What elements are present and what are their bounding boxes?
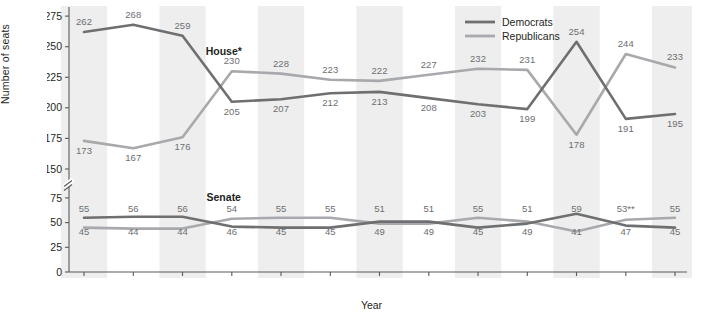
senate-data-label: 56	[128, 203, 139, 214]
senate-data-label: 41	[571, 226, 582, 237]
x-axis-title-text: Year	[361, 299, 382, 311]
house-data-label: 167	[125, 152, 141, 163]
house-data-label: 207	[273, 103, 289, 114]
house-data-label: 191	[618, 123, 634, 134]
senate-data-label: 49	[374, 226, 385, 237]
house-data-label: 262	[76, 16, 92, 27]
senate-data-label: 55	[79, 203, 90, 214]
legend-label-democrats: Democrats	[502, 16, 553, 28]
y-tick-label: 225	[47, 71, 62, 83]
legend-label-republicans: Republicans	[502, 30, 560, 42]
senate-data-label: 45	[473, 226, 484, 237]
senate-data-label: 45	[79, 226, 90, 237]
house-data-label: 268	[125, 9, 141, 20]
house-panel-label: House*	[206, 45, 243, 57]
senate-data-label: 55	[473, 203, 484, 214]
house-data-label: 223	[322, 64, 338, 75]
senate-data-label: 45	[670, 226, 681, 237]
house-data-label: 176	[175, 141, 191, 152]
senate-data-label: 55	[276, 203, 287, 214]
chart-svg: 27525022520017515075502501989–19901991–1…	[47, 6, 692, 278]
senate-data-label: 54	[226, 203, 237, 214]
house-data-label: 205	[224, 106, 240, 117]
senate-data-label: 45	[276, 226, 287, 237]
house-data-label: 195	[667, 118, 683, 129]
senate-data-label: 53**	[617, 203, 635, 214]
senate-data-label: 51	[423, 203, 434, 214]
house-data-label: 222	[372, 65, 388, 76]
house-data-label: 199	[519, 113, 535, 124]
house-data-label: 212	[322, 97, 338, 108]
y-tick-label: 175	[47, 132, 62, 144]
house-data-label: 233	[667, 51, 683, 62]
senate-panel-label: Senate	[207, 191, 242, 203]
senate-data-label: 44	[128, 226, 139, 237]
senate-data-label: 51	[522, 203, 533, 214]
senate-data-label: 56	[177, 203, 188, 214]
house-data-label: 208	[421, 102, 437, 113]
y-tick-label: 0	[56, 266, 62, 278]
senate-data-label: 44	[177, 226, 188, 237]
house-data-label: 231	[519, 54, 535, 65]
house-data-label: 213	[372, 96, 388, 107]
plot-area: 27525022520017515075502501989–19901991–1…	[47, 6, 692, 278]
senate-data-label: 46	[226, 226, 237, 237]
house-data-label: 228	[273, 58, 289, 69]
senate-data-label: 45	[325, 226, 336, 237]
y-tick-label: 200	[47, 101, 62, 113]
y-axis-title: Number of seats	[0, 0, 11, 104]
senate-data-label: 47	[620, 226, 631, 237]
senate-data-label: 55	[325, 203, 336, 214]
house-data-label: 259	[175, 20, 191, 31]
senate-data-label: 55	[670, 203, 681, 214]
house-data-label: 254	[569, 26, 585, 37]
house-data-label: 178	[569, 139, 585, 150]
y-tick-label: 250	[47, 40, 62, 52]
senate-data-label: 49	[522, 226, 533, 237]
x-axis-title: Year	[0, 299, 705, 311]
chart-root: Number of seats Year 2752502252001751507…	[0, 0, 705, 319]
senate-data-label: 59	[571, 203, 582, 214]
house-data-label: 203	[470, 108, 486, 119]
senate-data-label: 49	[423, 226, 434, 237]
house-data-label: 232	[470, 53, 486, 64]
house-data-label: 227	[421, 59, 437, 70]
y-tick-label: 50	[50, 216, 62, 228]
y-tick-label: 150	[47, 163, 62, 175]
y-tick-label: 275	[47, 10, 62, 22]
senate-data-label: 51	[374, 203, 385, 214]
house-data-label: 173	[76, 145, 92, 156]
y-tick-label: 25	[50, 241, 62, 253]
house-data-label: 244	[618, 38, 634, 49]
y-tick-label: 75	[50, 192, 62, 204]
